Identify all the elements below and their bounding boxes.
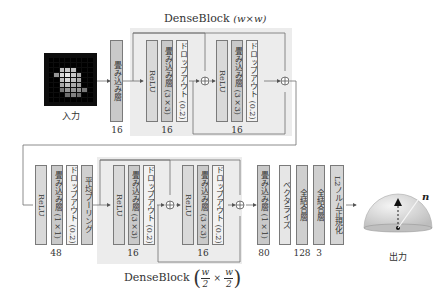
- input-pixel: [77, 63, 82, 67]
- input-pixel: [88, 98, 93, 102]
- dense-block-1-name: DenseBlock: [164, 12, 230, 25]
- input-pixel: [71, 98, 76, 102]
- db2-u1-relu-label: ReLU: [115, 194, 123, 216]
- db2-u2-relu: ReLU: [182, 165, 194, 245]
- input-pixel: [82, 83, 87, 87]
- head-fc1-label: 全結合層: [298, 189, 306, 221]
- head-l2-normalize: L2ノルム正規化: [330, 165, 344, 245]
- head-conv-1x1: 畳み込み層 (1×1): [257, 165, 270, 245]
- db1-u1-channels: 16: [152, 125, 182, 135]
- input-pixel: [71, 68, 76, 72]
- transition-conv: 畳み込み層 (1×1): [51, 165, 63, 245]
- input-pixel: [49, 63, 54, 67]
- transition-relu-label: ReLU: [37, 194, 45, 216]
- db1-u2-relu: ReLU: [216, 40, 228, 122]
- transition-conv-label: 畳み込み層 (1×1): [53, 171, 61, 239]
- head-fc2-label: 全結合層: [315, 189, 323, 221]
- input-pixel: [82, 63, 87, 67]
- db1-u2-dropout: ドロップアウト (0.2): [246, 40, 258, 122]
- input-pixel: [88, 63, 93, 67]
- input-pixel: [60, 98, 65, 102]
- transition-avg-pooling: 平均プーリング: [81, 165, 93, 245]
- db1-u1-dropout: ドロップアウト (0.2): [176, 40, 188, 122]
- input-pixel: [71, 88, 76, 92]
- input-pixel: [71, 78, 76, 82]
- input-pixel: [49, 98, 54, 102]
- input-pixel: [60, 88, 65, 92]
- transition-dropout-label: ドロップアウト (0.2): [68, 166, 76, 244]
- input-pixel: [88, 83, 93, 87]
- input-pixel: [49, 78, 54, 82]
- input-pixel: [82, 93, 87, 97]
- input-pixel: [54, 88, 59, 92]
- input-pixel: [54, 98, 59, 102]
- head-vectorize-label: ベクタライズ: [281, 181, 289, 229]
- input-pixel: [71, 63, 76, 67]
- db2-u1-conv-label: 畳み込み層 (3×3): [130, 171, 138, 239]
- db1-u1-conv-label: 畳み込み層 (3×3): [163, 47, 171, 115]
- db2-u1-conv: 畳み込み層 (3×3): [128, 165, 140, 245]
- input-pixel: [54, 63, 59, 67]
- input-pixel: [82, 73, 87, 77]
- input-pixel: [60, 78, 65, 82]
- transition-dropout: ドロップアウト (0.2): [66, 165, 78, 245]
- input-pixel: [54, 93, 59, 97]
- input-pixel: [71, 83, 76, 87]
- input-image: [44, 53, 97, 106]
- dense-block-2-name: DenseBlock: [124, 271, 190, 284]
- output-hemisphere-icon: n: [360, 188, 436, 244]
- input-pixel: [88, 58, 93, 62]
- input-pixel: [82, 68, 87, 72]
- input-pixel: [49, 68, 54, 72]
- size-times: ×: [213, 273, 221, 283]
- input-pixel: [65, 88, 70, 92]
- input-pixel: [65, 78, 70, 82]
- input-pixel: [49, 73, 54, 77]
- db2-u1-dropout-label: ドロップアウト (0.2): [145, 166, 153, 244]
- db1-u1-dropout-label: ドロップアウト (0.2): [178, 42, 186, 120]
- db2-u2-channels: 16: [188, 248, 218, 258]
- input-pixel: [65, 93, 70, 97]
- input-pixel: [60, 83, 65, 87]
- input-pixel: [77, 88, 82, 92]
- db1-u2-conv-label: 畳み込み層 (3×3): [233, 47, 241, 115]
- db1-u2-relu-label: ReLU: [218, 70, 226, 92]
- head-fc-128: 全結合層: [296, 165, 308, 245]
- input-pixel: [54, 68, 59, 72]
- db2-u1-channels: 16: [118, 248, 148, 258]
- db2-u2-conv: 畳み込み層 (3×3): [197, 165, 209, 245]
- input-pixel: [54, 73, 59, 77]
- dense-block-1-title: DenseBlock (w×w): [164, 12, 266, 25]
- stem-conv-layer: 畳み込み層: [110, 40, 123, 122]
- input-pixel: [65, 58, 70, 62]
- input-pixel: [71, 93, 76, 97]
- db2-u1-dropout: ドロップアウト (0.2): [143, 165, 155, 245]
- db2-u2-conv-label: 畳み込み層 (3×3): [199, 171, 207, 239]
- transition-channels: 48: [41, 248, 71, 258]
- input-pixel: [60, 93, 65, 97]
- input-pixel: [77, 78, 82, 82]
- input-pixel: [54, 58, 59, 62]
- db1-u2-channels: 16: [222, 125, 252, 135]
- input-pixel: [82, 98, 87, 102]
- input-pixel: [71, 73, 76, 77]
- transition-pool-label: 平均プーリング: [83, 177, 91, 233]
- dense-block-2-title: DenseBlock (w2 × w2): [124, 266, 241, 290]
- input-pixel: [60, 68, 65, 72]
- input-pixel: [77, 83, 82, 87]
- input-pixel: [54, 83, 59, 87]
- input-pixel: [71, 58, 76, 62]
- head-conv-channels: 80: [249, 248, 279, 258]
- input-pixel: [88, 73, 93, 77]
- input-pixel: [77, 58, 82, 62]
- input-pixel: [49, 88, 54, 92]
- db1-u1-relu: ReLU: [146, 40, 158, 122]
- db2-u2-dropout-label: ドロップアウト (0.2): [214, 166, 222, 244]
- db1-u1-conv: 畳み込み層 (3×3): [161, 40, 173, 122]
- input-pixel-grid: [48, 57, 93, 102]
- input-pixel: [49, 83, 54, 87]
- input-pixel: [65, 68, 70, 72]
- head-fc2-channels: 3: [304, 248, 334, 258]
- db2-u2-dropout: ドロップアウト (0.2): [212, 165, 224, 245]
- input-pixel: [82, 58, 87, 62]
